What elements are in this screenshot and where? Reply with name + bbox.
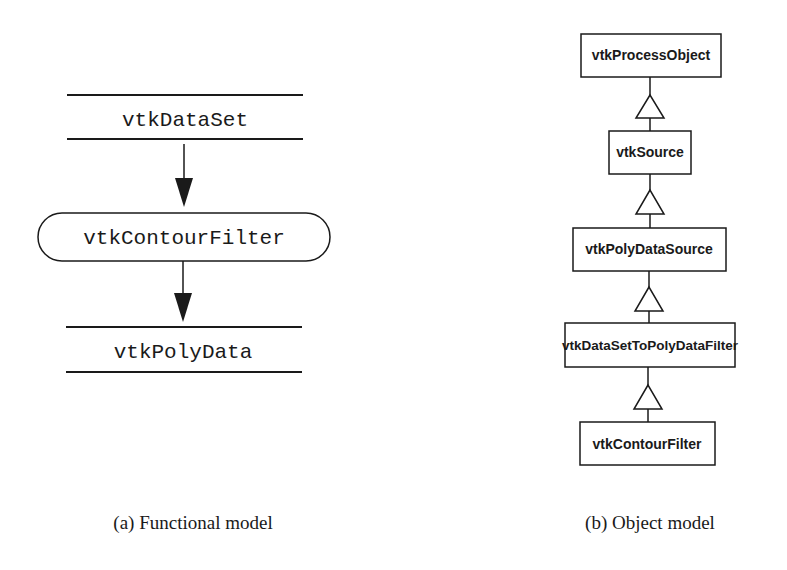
svg-text:vtkSource: vtkSource [616,144,684,160]
diagram-canvas: vtkDataSet vtkContourFilter vtkPolyData … [0,0,787,570]
class-box-vtksource: vtkSource [609,131,691,174]
class-box-vtkprocessobject: vtkProcessObject [581,34,721,77]
datastore-output-label: vtkPolyData [114,341,253,364]
flow-arrow-icon [175,144,193,207]
inheritance-triangle-icon [636,77,664,131]
svg-text:vtkDataSetToPolyDataFilter: vtkDataSetToPolyDataFilter [562,338,739,353]
svg-text:vtkProcessObject: vtkProcessObject [592,47,711,63]
caption-object-model: (b) Object model [585,512,715,534]
class-box-vtkpolydatasource: vtkPolyDataSource [573,228,726,271]
datastore-input: vtkDataSet [67,95,303,139]
process-label: vtkContourFilter [83,227,285,250]
class-box-vtkcontourfilter: vtkContourFilter [580,422,715,465]
process-node: vtkContourFilter [38,213,330,261]
datastore-output: vtkPolyData [66,327,302,372]
svg-text:vtkContourFilter: vtkContourFilter [593,436,702,452]
flow-arrow-icon [174,261,192,322]
class-box-vtkdatasettopolydatafilter: vtkDataSetToPolyDataFilter [562,323,739,367]
functional-model: vtkDataSet vtkContourFilter vtkPolyData … [38,95,330,534]
svg-text:vtkPolyDataSource: vtkPolyDataSource [585,241,713,257]
datastore-input-label: vtkDataSet [122,109,248,132]
inheritance-triangle-icon [634,367,662,422]
inheritance-triangle-icon [635,271,663,323]
object-model: vtkProcessObject vtkSource vtkPolyDataSo… [562,34,739,534]
caption-functional-model: (a) Functional model [113,512,272,534]
inheritance-triangle-icon [636,174,664,228]
